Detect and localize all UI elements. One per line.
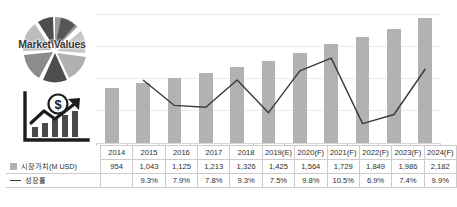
line-swatch-icon [10,180,21,181]
cell-growth-rate: 9.9% [424,174,456,188]
data-table: 201420152016201720182019(E)2020(F)2021(F… [6,145,457,188]
column-header-2020f: 2020(F) [295,146,327,160]
growth-rate-line-series [96,5,441,144]
table-header-row: 201420152016201720182019(E)2020(F)2021(F… [6,146,456,160]
table-row-growth-rate: 성장률 9.3%7.9%7.8%9.3%7.5%9.8%10.5%6.9%7.4… [6,174,456,188]
cell-growth-rate: 7.4% [392,174,424,188]
legend-growth-rate: 성장률 [6,174,101,188]
header-corner-cell [6,146,101,160]
bar-chart-growth-dollar-icon: $ [18,90,92,146]
column-header-2018: 2018 [230,146,262,160]
column-header-2024f: 2024(F) [424,146,456,160]
cell-growth-rate: 7.8% [198,174,230,188]
column-header-2016: 2016 [165,146,197,160]
cell-market-value: 2,182 [424,160,456,174]
legend-label-market-value: 시장가치(M USD) [21,160,77,173]
cell-market-value: 1,043 [133,160,165,174]
column-header-2015: 2015 [133,146,165,160]
cell-market-value: 1,849 [359,160,391,174]
cell-market-value: 1,425 [262,160,294,174]
cell-market-value: 1,986 [392,160,424,174]
cell-market-value: 954 [101,160,133,174]
cell-market-value: 1,564 [295,160,327,174]
cell-growth-rate: 7.9% [165,174,197,188]
legend-label-growth-rate: 성장률 [25,174,46,187]
svg-text:$: $ [54,97,62,112]
cell-growth-rate: 9.3% [230,174,262,188]
column-header-2019e: 2019(E) [262,146,294,160]
brand-title: Market\Values [6,38,98,50]
plot-area [96,5,441,144]
branding-block: Market\Values $ [6,6,98,146]
column-header-2023f: 2023(F) [392,146,424,160]
cell-growth-rate: 9.8% [295,174,327,188]
square-swatch-icon [10,163,17,170]
column-header-2017: 2017 [198,146,230,160]
cell-growth-rate: 7.5% [262,174,294,188]
cell-growth-rate: 10.5% [327,174,359,188]
cell-growth-rate [101,174,133,188]
growth-rate-polyline [143,58,425,124]
cell-market-value: 1,213 [198,160,230,174]
cell-market-value: 1,326 [230,160,262,174]
legend-market-value: 시장가치(M USD) [6,160,101,174]
cell-market-value: 1,125 [165,160,197,174]
cell-growth-rate: 9.3% [133,174,165,188]
cell-growth-rate: 6.9% [359,174,391,188]
cell-market-value: 1,729 [327,160,359,174]
column-header-2014: 2014 [101,146,133,160]
column-header-2022f: 2022(F) [359,146,391,160]
table-row-market-value: 시장가치(M USD) 9541,0431,1251,2131,3261,425… [6,160,456,174]
column-header-2021f: 2021(F) [327,146,359,160]
